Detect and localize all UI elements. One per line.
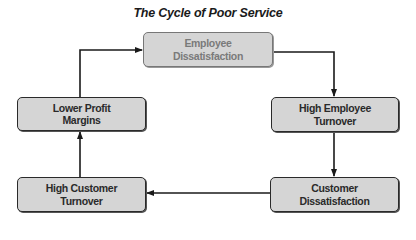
node-label-line1: High Employee [299,102,371,115]
node-customer-dissatisfaction: Customer Dissatisfaction [270,177,399,212]
node-label-line1: Lower Profit [53,102,111,115]
node-label-line2: Turnover [299,115,371,128]
arrow-lower-profit-margins-to-employee-dissatisfaction [80,50,142,97]
node-label-line1: Employee [173,37,243,50]
node-high-customer-turnover: High Customer Turnover [17,177,146,212]
node-label-line2: Dissatisfaction [299,195,369,208]
node-employee-dissatisfaction: Employee Dissatisfaction [143,32,273,67]
node-label-line2: Turnover [46,195,117,208]
arrow-employee-dissatisfaction-to-high-employee-turnover [273,52,334,96]
node-label-line2: Dissatisfaction [173,50,243,63]
node-lower-profit-margins: Lower Profit Margins [17,97,146,131]
node-high-employee-turnover: High Employee Turnover [271,97,399,132]
node-label-line1: High Customer [46,182,117,195]
node-label-line1: Customer [299,182,369,195]
node-label-line2: Margins [53,114,111,127]
